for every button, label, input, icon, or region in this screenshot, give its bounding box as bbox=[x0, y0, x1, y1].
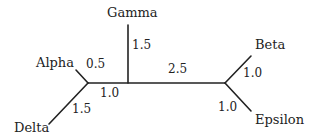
length-internal-right: 2.5 bbox=[168, 62, 187, 76]
phylogenetic-tree: Alpha Gamma Beta Delta Epsilon 0.5 1.5 1… bbox=[0, 0, 310, 137]
length-gamma: 1.5 bbox=[132, 38, 151, 52]
length-alpha: 0.5 bbox=[86, 57, 105, 71]
taxon-label-delta: Delta bbox=[14, 120, 49, 135]
length-delta: 1.5 bbox=[72, 102, 91, 116]
edge-alpha bbox=[76, 70, 88, 83]
length-internal-left: 1.0 bbox=[100, 86, 119, 100]
taxon-label-beta: Beta bbox=[255, 37, 285, 52]
length-beta: 1.0 bbox=[243, 66, 262, 80]
length-epsilon: 1.0 bbox=[218, 100, 237, 114]
taxon-label-alpha: Alpha bbox=[35, 55, 74, 70]
taxon-label-gamma: Gamma bbox=[107, 5, 158, 20]
taxon-label-epsilon: Epsilon bbox=[255, 112, 305, 127]
